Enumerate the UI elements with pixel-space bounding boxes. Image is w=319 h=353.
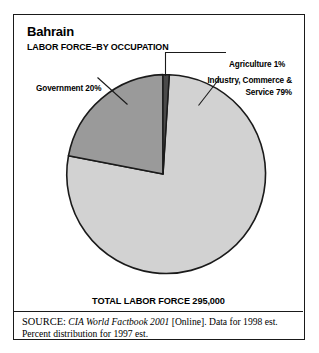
chart-stage: Bahrain LABOR FORCE–BY OCCUPATION Agricu… <box>14 15 303 338</box>
source-note: SOURCE: CIA World Factbook 2001 [Online]… <box>22 316 296 341</box>
chart-subtitle: LABOR FORCE–BY OCCUPATION <box>27 41 169 52</box>
callout-agriculture-label: Agriculture 1% <box>229 59 285 69</box>
callout-industry-line2: Service 79% <box>245 87 292 97</box>
source-label: SOURCE: <box>22 316 66 327</box>
source-work-title: CIA World Factbook 2001 <box>68 316 169 327</box>
source-divider <box>14 311 303 312</box>
total-labor-force-label: TOTAL LABOR FORCE 295,000 <box>14 296 303 306</box>
callout-industry-line1: Industry, Commerce & <box>207 75 292 85</box>
callout-agriculture: Agriculture 1% <box>229 59 285 71</box>
callout-industry: Industry, Commerce & Service 79% <box>194 75 292 98</box>
figure-panel: Bahrain LABOR FORCE–BY OCCUPATION Agricu… <box>13 14 305 340</box>
leader-line-agriculture <box>166 53 227 77</box>
callout-government-label: Government 20% <box>36 83 101 93</box>
callout-government: Government 20% <box>36 83 101 95</box>
page-title: Bahrain <box>27 24 74 39</box>
